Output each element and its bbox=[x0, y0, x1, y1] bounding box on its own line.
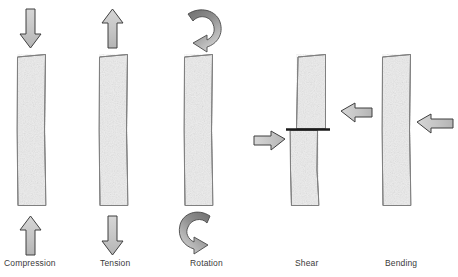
rotation-top-curved-arrow-icon bbox=[188, 10, 221, 52]
shear-column-lower bbox=[290, 131, 319, 206]
rotation-column bbox=[184, 55, 213, 206]
compression-bottom-arrow-up-icon bbox=[20, 216, 41, 255]
shear-upper-arrow-left-icon bbox=[341, 103, 372, 122]
label-shear: Shear bbox=[295, 258, 318, 268]
panel-bending bbox=[382, 55, 453, 206]
tension-top-arrow-up-icon bbox=[102, 9, 123, 48]
panel-shear bbox=[254, 55, 372, 206]
rotation-bottom-curved-arrow-icon bbox=[179, 212, 210, 254]
panel-rotation bbox=[179, 10, 221, 254]
label-tension: Tension bbox=[100, 258, 130, 268]
label-compression: Compression bbox=[4, 258, 56, 268]
bending-column bbox=[382, 55, 411, 206]
tension-column bbox=[99, 55, 128, 206]
label-bending: Bending bbox=[385, 258, 417, 268]
stress-types-diagram: Compression Tension Rotation Shear Bendi… bbox=[0, 0, 458, 277]
panel-compression bbox=[17, 9, 46, 255]
bending-side-arrow-left-icon bbox=[417, 114, 453, 133]
compression-top-arrow-down-icon bbox=[20, 9, 41, 48]
label-rotation: Rotation bbox=[190, 258, 223, 268]
shear-column-upper bbox=[297, 55, 326, 129]
shear-lower-arrow-right-icon bbox=[254, 131, 285, 150]
tension-bottom-arrow-down-icon bbox=[102, 216, 123, 255]
panel-tension bbox=[99, 9, 128, 255]
diagram-canvas bbox=[0, 0, 458, 277]
compression-column bbox=[17, 55, 46, 206]
